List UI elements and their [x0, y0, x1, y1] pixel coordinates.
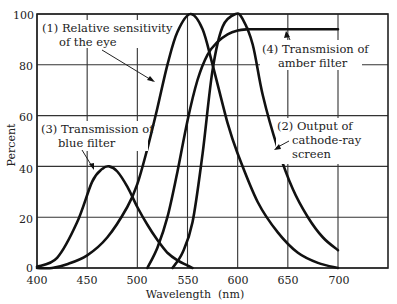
arrowhead-icon [147, 76, 155, 82]
annotation-1-line-1: (1) Relative sensitivity [42, 21, 173, 35]
y-tick-60: 60 [19, 111, 33, 124]
annotation-2-line-1: (2) Output of [277, 119, 353, 133]
annotation-2-line-2: cathode-ray [292, 133, 362, 147]
y-tick-80: 80 [19, 60, 33, 73]
y-tick-20: 20 [19, 213, 33, 226]
x-tick-700: 700 [329, 274, 350, 287]
annotation-eye-sensitivity: (1) Relative sensitivity of the eye [41, 20, 173, 82]
arrowhead-icon [284, 31, 290, 38]
annotation-2-line-3: screen [292, 147, 331, 161]
annotation-3-line-2: blue filter [58, 136, 116, 150]
x-tick-600: 600 [228, 274, 249, 287]
annotation-3-line-1: (3) Transmission of [41, 122, 154, 136]
annotation-amber-filter: (4) Transmision of amber filter [260, 31, 369, 70]
annotation-crt-output: (2) Output of cathode-ray screen [274, 118, 362, 164]
annotation-1-arrow [102, 50, 153, 81]
x-axis-label: Wavelength (nm) [146, 288, 244, 301]
y-axis-label: Percent [5, 123, 18, 166]
x-tick-650: 650 [278, 274, 299, 287]
x-tick-550: 550 [178, 274, 199, 287]
x-tick-500: 500 [127, 274, 148, 287]
y-tick-40: 40 [19, 163, 33, 176]
annotation-4-line-2: amber filter [278, 56, 348, 70]
spectral-response-chart: 0 20 40 60 80 100 400 450 500 550 600 65… [0, 0, 397, 304]
annotation-1-line-2: of the eye [59, 35, 117, 49]
x-tick-450: 450 [77, 274, 98, 287]
x-tick-400: 400 [27, 274, 48, 287]
x-tick-labels: 400 450 500 550 600 650 700 [27, 274, 350, 287]
y-tick-100: 100 [13, 9, 34, 22]
annotation-4-line-1: (4) Transmision of [262, 42, 369, 56]
